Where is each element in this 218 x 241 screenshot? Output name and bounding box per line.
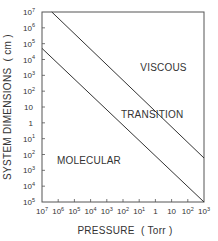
y-tick-label: 107	[23, 7, 35, 18]
y-tick-label: 1	[29, 119, 34, 128]
y-tick-label: 105	[23, 38, 35, 49]
region-label-viscous: VISCOUS	[140, 62, 187, 73]
y-tick-label: 102	[23, 86, 35, 97]
region-labels: VISCOUSTRANSITIONMOLECULAR	[57, 62, 187, 166]
x-tick-label: 101	[133, 206, 145, 217]
y-tick-label: 102	[23, 149, 35, 160]
region-label-transition: TRANSITION	[121, 109, 184, 120]
plot-border	[42, 12, 204, 202]
y-tick-label: 103	[23, 165, 35, 176]
x-tick-label: 107	[36, 206, 48, 217]
x-tick-label: 106	[52, 206, 64, 217]
y-tick-label: 101	[23, 133, 35, 144]
x-tick-label: 103	[101, 206, 113, 217]
x-tick-label: 10	[167, 207, 176, 216]
x-tick-label: 1	[153, 207, 158, 216]
y-tick-label: 106	[23, 22, 35, 33]
y-tick-label: 10	[24, 103, 33, 112]
y-tick-label: 105	[23, 197, 35, 208]
region-label-molecular: MOLECULAR	[57, 155, 121, 166]
x-axis-title: PRESSURE ( Torr )	[77, 225, 172, 236]
x-tick-label: 103	[198, 206, 210, 217]
y-axis-title: SYSTEM DIMENSIONS ( cm )	[2, 34, 13, 180]
x-tick-label: 102	[117, 206, 129, 217]
plot-frame	[42, 12, 204, 202]
x-tick-label: 104	[85, 206, 97, 217]
x-tick-label: 105	[68, 206, 80, 217]
flow-regime-chart: 107106105104103102101101102103104105 107…	[0, 0, 218, 241]
boundary-line	[52, 12, 204, 158]
y-tick-label: 103	[23, 70, 35, 81]
boundary-lines	[42, 12, 204, 202]
y-tick-label: 104	[23, 181, 35, 192]
x-tick-label: 102	[182, 206, 194, 217]
y-tick-label: 104	[23, 54, 35, 65]
